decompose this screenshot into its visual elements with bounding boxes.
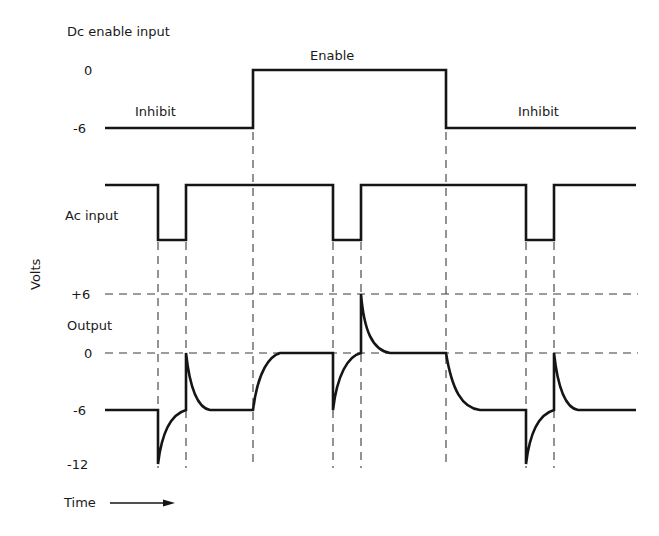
ac-input-waveform: [105, 185, 636, 240]
dc-input-waveform: [105, 70, 636, 128]
state-inhibit-left: Inhibit: [135, 104, 176, 119]
out-level-minus12: -12: [67, 457, 88, 472]
out-level-plus6: +6: [71, 287, 90, 302]
x-axis-label: Time: [63, 495, 96, 510]
y-axis-label: Volts: [28, 258, 43, 290]
out-level-0: 0: [84, 346, 92, 361]
dashed-guides: [105, 132, 638, 468]
dc-level-0: 0: [84, 63, 92, 78]
out-level-minus6: -6: [73, 403, 86, 418]
ac-input-title: Ac input: [65, 208, 118, 223]
timing-diagram: Dc enable input 0 -6 Inhibit Enable Inhi…: [0, 0, 659, 536]
state-enable: Enable: [310, 48, 354, 63]
dc-level-minus6: -6: [73, 121, 86, 136]
output-title: Output: [67, 318, 112, 333]
state-inhibit-right: Inhibit: [518, 104, 559, 119]
time-arrow-icon: [110, 500, 175, 507]
output-waveform: [105, 294, 636, 464]
dc-input-title: Dc enable input: [67, 24, 170, 39]
